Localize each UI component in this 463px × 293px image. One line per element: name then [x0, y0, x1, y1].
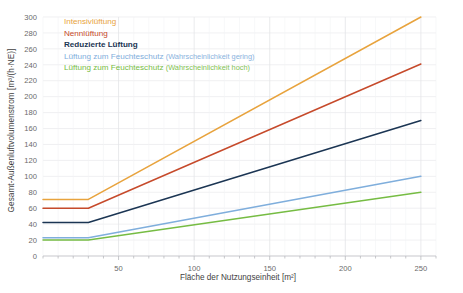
legend-item-1: Nennlüftung: [64, 28, 255, 40]
y-tick-label: 160: [24, 124, 37, 133]
y-tick-label: 180: [24, 108, 37, 117]
y-tick-label: 240: [24, 61, 37, 70]
legend-item-label: Lüftung zum Feuchteschutz: [64, 63, 166, 72]
y-tick-label: 140: [24, 140, 37, 149]
y-tick-label: 120: [24, 156, 37, 165]
x-tick-label: 150: [263, 264, 276, 273]
y-tick-label: 200: [24, 92, 37, 101]
y-axis-label-wrapper: Gesamt-Außenluftvolumenstrom [m³/(h·NE)]: [0, 0, 24, 260]
legend-item-3: Lüftung zum Feuchteschutz (Wahrscheinlic…: [64, 51, 255, 63]
x-tick-label: 250: [415, 264, 428, 273]
chart-container: 0204060801001201401601802002202402602803…: [0, 0, 463, 293]
legend-item-2: Reduzierte Lüftung: [64, 39, 255, 51]
legend-item-sublabel: (Wahrscheinlichkeit hoch): [166, 63, 250, 72]
y-tick-label: 60: [29, 204, 37, 213]
legend-item-label: Lüftung zum Feuchteschutz: [64, 52, 166, 61]
legend-item-label: Intensivlüftung: [64, 17, 116, 26]
legend-item-4: Lüftung zum Feuchteschutz (Wahrscheinlic…: [64, 62, 255, 74]
x-tick-label: 200: [339, 264, 352, 273]
series-line-4: [43, 192, 421, 240]
y-tick-label: 0: [33, 252, 37, 261]
legend-item-label: Nennlüftung: [64, 29, 108, 38]
y-tick-label: 220: [24, 76, 37, 85]
x-axis-label: Fläche der Nutzungseinheit [m²]: [43, 273, 433, 282]
y-tick-label: 100: [24, 172, 37, 181]
chart-legend: IntensivlüftungNennlüftungReduzierte Lüf…: [64, 16, 255, 74]
legend-item-0: Intensivlüftung: [64, 16, 255, 28]
y-tick-label: 300: [24, 13, 37, 22]
legend-item-label: Reduzierte Lüftung: [64, 40, 138, 49]
series-line-2: [43, 121, 421, 223]
series-line-3: [43, 176, 421, 237]
y-tick-label: 80: [29, 188, 37, 197]
y-tick-label: 280: [24, 29, 37, 38]
y-tick-label: 20: [29, 236, 37, 245]
axis-ticks: [43, 256, 436, 260]
y-tick-label: 40: [29, 220, 37, 229]
y-tick-label: 260: [24, 45, 37, 54]
y-axis-label: Gesamt-Außenluftvolumenstrom [m³/(h·NE)]: [8, 48, 17, 212]
x-tick-label: 100: [188, 264, 201, 273]
legend-item-sublabel: (Wahrscheinlichkeit gering): [166, 52, 255, 61]
x-tick-label: 50: [114, 264, 122, 273]
